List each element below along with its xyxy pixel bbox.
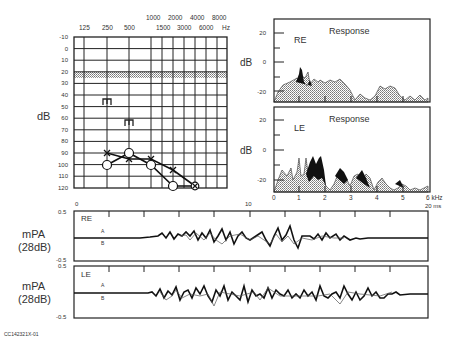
db-tick-labels: -10 0 10 20 30 40 50 60 70 80 90 100 110… [58,34,69,191]
svg-text:3000: 3000 [177,24,192,31]
tympanogram-le: 0.5 -0.5 mPA (28dB) LE A B [18,263,428,320]
svg-text:-10: -10 [59,34,68,40]
svg-text:30: 30 [61,80,68,86]
svg-text:6 kHz: 6 kHz [426,194,443,201]
time-20: 20 ms [425,203,441,209]
freq-labels-top: 1000 2000 4000 8000 [146,14,227,21]
re-mpa-label: mPA [22,228,46,240]
time-10: 10 [245,201,252,207]
freq-labels-bottom: 125 250 500 1500 3000 6000 Hz [79,24,230,31]
svg-text:5: 5 [401,194,405,201]
resp-re-title: Response [329,26,370,36]
response-le-panel: dB 20 0 -20 Response LE 0 1 2 3 4 5 6 kH… [240,107,443,201]
svg-text:0: 0 [65,46,69,52]
svg-text:0: 0 [263,147,267,153]
svg-text:60: 60 [61,115,68,121]
svg-text:A: A [101,282,105,288]
svg-text:B: B [101,240,105,246]
svg-text:110: 110 [58,173,68,179]
figure: dB 1000 2000 4000 8000 125 250 500 1500 … [0,0,458,352]
svg-text:6000: 6000 [199,24,214,31]
svg-text:125: 125 [79,24,90,31]
time-0: 0 [75,201,79,207]
re-trace-b [180,233,344,244]
svg-text:(28dB): (28dB) [18,241,51,253]
re-trace-a [74,226,428,248]
svg-text:1500: 1500 [156,24,171,31]
svg-text:90: 90 [61,150,68,156]
svg-text:40: 40 [61,92,68,98]
svg-text:2000: 2000 [168,14,183,21]
svg-text:1000: 1000 [146,14,161,21]
resp-le-title: Response [329,114,370,124]
resp-re-ylabel: dB [240,57,253,68]
svg-text:20: 20 [259,117,266,123]
svg-text:80: 80 [61,138,68,144]
svg-text:0.5: 0.5 [58,209,67,215]
resp-le-ylabel: dB [240,145,253,156]
svg-text:20: 20 [259,30,266,36]
svg-text:120: 120 [58,185,69,191]
audiogram-ylabel: dB [37,110,50,122]
resp-re-yticks: 20 0 -20 [257,30,266,95]
svg-text:50: 50 [61,104,68,110]
figure-id: CC142321X-01 [4,331,39,337]
le-trace-a [74,286,428,302]
svg-text:20: 20 [61,69,68,75]
resp-le-label: LE [294,123,305,133]
svg-text:LE: LE [81,270,91,279]
svg-text:4: 4 [375,194,379,201]
svg-text:(28dB): (28dB) [18,293,51,305]
svg-text:0: 0 [272,194,276,201]
svg-text:Hz: Hz [222,24,230,31]
tympanogram-re: 0 10 20 ms 0.5 -0.5 mPA (28dB) RE A B [18,201,441,263]
svg-text:500: 500 [124,24,135,31]
svg-text:100: 100 [58,162,69,168]
svg-text:-20: -20 [257,89,266,95]
svg-text:B: B [101,295,105,301]
le-mpa-label: mPA [22,280,46,292]
response-re-panel: dB 20 0 -20 Response RE [240,19,430,102]
svg-text:0: 0 [263,59,267,65]
svg-text:1: 1 [297,194,301,201]
svg-text:70: 70 [61,127,68,133]
svg-text:3: 3 [349,194,353,201]
svg-text:0.5: 0.5 [58,263,67,269]
audiogram: dB 1000 2000 4000 8000 125 250 500 1500 … [37,14,230,191]
svg-text:2: 2 [323,194,327,201]
svg-text:10: 10 [61,57,68,63]
resp-xticks: 0 1 2 3 4 5 6 kHz [272,194,443,201]
svg-text:4000: 4000 [190,14,205,21]
svg-text:250: 250 [102,24,113,31]
svg-text:RE: RE [81,214,92,223]
svg-text:A: A [101,228,105,234]
svg-text:-0.5: -0.5 [56,314,67,320]
svg-text:-20: -20 [257,177,266,183]
svg-text:8000: 8000 [212,14,227,21]
resp-re-label: RE [294,35,307,45]
resp-le-yticks: 20 0 -20 [257,117,266,183]
